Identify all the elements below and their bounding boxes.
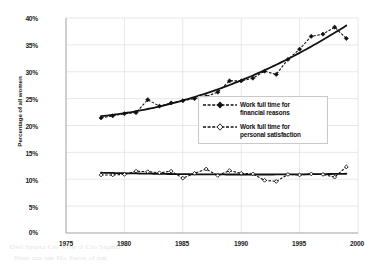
legend-item-financial[interactable]: Work full time for financial reasons (203, 101, 327, 116)
legend-label-financial: Work full time for financial reasons (240, 101, 290, 116)
legend-item-personal[interactable]: Work full time for personal satisfaction (203, 123, 327, 138)
legend-label-personal: Work full time for personal satisfaction (240, 123, 301, 138)
legend-marker-open-diamond-icon (203, 123, 237, 131)
chart-container: Percentage of all women 40% 35% 30% 25% … (0, 0, 378, 264)
legend-marker-filled-diamond-icon (203, 101, 237, 109)
bleed-through-line-1: Owl Sparta Cto Vttw il Cto Siqmri (10, 243, 121, 251)
bleed-through-line-2: Nnur rzn om Mo Swon ol nm (14, 254, 107, 262)
